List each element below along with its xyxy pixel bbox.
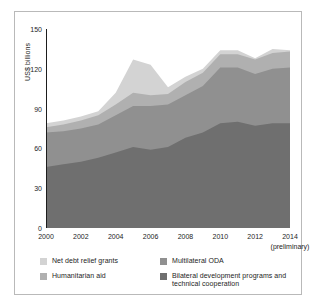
y-axis-ticks: 0306090120150 — [18, 29, 42, 228]
legend-item[interactable]: Net debt relief grants — [40, 257, 150, 266]
legend-swatch-icon — [160, 258, 167, 265]
plot-area: US$ billions 0306090120150 2000200220042… — [46, 29, 290, 228]
legend-swatch-icon — [40, 273, 47, 280]
area-series-group — [46, 49, 290, 228]
legend-column-left: Net debt relief grantsHumanitarian aid — [40, 257, 150, 286]
legend-item[interactable]: Multilateral ODA — [160, 257, 290, 266]
x-tick-label: 2010 — [212, 233, 228, 240]
legend-item-label: Bilateral development programs and techn… — [172, 272, 290, 289]
legend-column-right: Multilateral ODABilateral development pr… — [160, 257, 290, 295]
x-tick-label: 2004 — [108, 233, 124, 240]
legend-item-label: Multilateral ODA — [172, 257, 224, 266]
y-tick-label: 30 — [18, 185, 42, 192]
legend-swatch-icon — [40, 258, 47, 265]
x-tick-label: 2008 — [178, 233, 194, 240]
x-axis-ticks: 20002002200420062008201020122014(prelimi… — [46, 228, 290, 252]
y-tick-label: 90 — [18, 105, 42, 112]
legend-item-label: Net debt relief grants — [52, 257, 118, 266]
x-tick-label: 2000 — [38, 233, 54, 240]
chart-figure: US$ billions 0306090120150 2000200220042… — [14, 11, 302, 295]
legend-swatch-icon — [160, 273, 167, 280]
x-tick-label: 2014 — [282, 233, 298, 240]
x-tick-label: 2012 — [247, 233, 263, 240]
y-tick-label: 0 — [18, 225, 42, 232]
legend-item[interactable]: Bilateral development programs and techn… — [160, 272, 290, 289]
x-tick-label: 2002 — [73, 233, 89, 240]
y-tick-label: 60 — [18, 145, 42, 152]
legend-item-label: Humanitarian aid — [52, 272, 106, 281]
preliminary-note: (preliminary) — [271, 243, 310, 250]
stacked-area-chart — [46, 29, 290, 228]
y-tick-label: 120 — [18, 65, 42, 72]
x-tick-label: 2006 — [143, 233, 159, 240]
y-tick-label: 150 — [18, 26, 42, 33]
legend-item[interactable]: Humanitarian aid — [40, 272, 150, 281]
